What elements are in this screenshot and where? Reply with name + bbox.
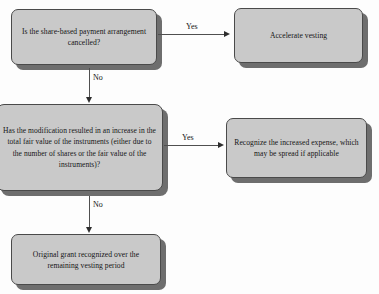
connector-cancel-to-accelerate xyxy=(158,34,226,35)
arrowhead-down-icon xyxy=(86,97,92,103)
connector-cancel-to-modification xyxy=(89,68,90,99)
flowchart-canvas: Is the share-based payment arrangement c… xyxy=(0,0,379,294)
edge-label-no-modification: No xyxy=(93,200,103,209)
edge-label-yes-cancellation: Yes xyxy=(186,22,198,31)
arrowhead-right-icon xyxy=(224,31,230,37)
connector-modification-to-original xyxy=(89,196,90,229)
edge-label-yes-modification: Yes xyxy=(182,133,194,142)
node-cancellation-question-label: Is the share-based payment arrangement c… xyxy=(18,26,150,48)
arrowhead-down-icon xyxy=(86,227,92,233)
node-accelerate-vesting-label: Accelerate vesting xyxy=(241,30,356,41)
node-recognize-increased-expense-label: Recognize the increased expense, which m… xyxy=(233,137,360,159)
connector-modification-to-recognize xyxy=(164,145,220,146)
node-recognize-increased-expense[interactable]: Recognize the increased expense, which m… xyxy=(226,118,367,178)
node-original-grant-recognized[interactable]: Original grant recognized over the remai… xyxy=(11,234,161,285)
node-cancellation-question[interactable]: Is the share-based payment arrangement c… xyxy=(11,9,157,65)
arrowhead-right-icon xyxy=(218,142,224,148)
node-modification-question[interactable]: Has the modification resulted in an incr… xyxy=(0,104,163,191)
edge-label-no-cancellation: No xyxy=(93,73,103,82)
node-accelerate-vesting[interactable]: Accelerate vesting xyxy=(234,8,363,63)
node-original-grant-recognized-label: Original grant recognized over the remai… xyxy=(18,249,154,271)
node-modification-question-label: Has the modification resulted in an incr… xyxy=(3,125,156,170)
